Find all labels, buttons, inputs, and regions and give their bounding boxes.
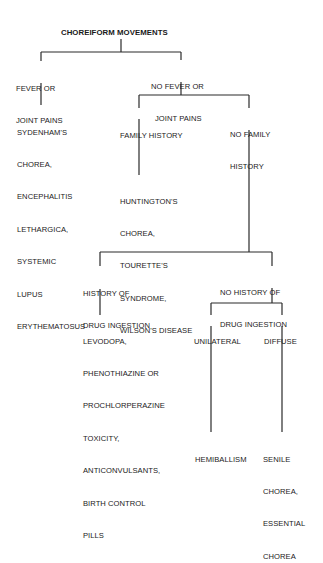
node-text: LEVODOPA, bbox=[83, 337, 165, 348]
node-text: ENCEPHALITIS bbox=[17, 192, 85, 203]
node-text: ERYTHEMATOSUS bbox=[17, 322, 85, 333]
node-text: PROCHLORPERAZINE bbox=[83, 401, 165, 412]
node-text: CHOREA, bbox=[120, 229, 192, 240]
node-text: UNILATERAL bbox=[194, 337, 241, 348]
node-text: NO FAMILY bbox=[230, 130, 270, 141]
node-text: HISTORY OF bbox=[83, 289, 150, 300]
node-unilateral: UNILATERAL bbox=[194, 315, 241, 369]
node-text: CHOREA bbox=[263, 552, 305, 563]
diagram-title: CHOREIFORM MOVEMENTS bbox=[61, 28, 168, 39]
node-diffuse: DIFFUSE bbox=[264, 315, 297, 369]
node-text: NO HISTORY OF bbox=[220, 288, 287, 299]
node-text: NO FEVER OR bbox=[151, 82, 204, 93]
node-text: TOXICITY, bbox=[83, 434, 165, 445]
node-text: BIRTH CONTROL bbox=[83, 499, 165, 510]
node-drug-outcome: LEVODOPA, PHENOTHIAZINE OR PROCHLORPERAZ… bbox=[83, 315, 165, 563]
node-text: PILLS bbox=[83, 531, 165, 542]
node-unilateral-outcome: HEMIBALLISM bbox=[195, 433, 247, 487]
node-text: LUPUS bbox=[17, 290, 85, 301]
node-text: CHOREA, bbox=[263, 487, 305, 498]
node-diffuse-outcome: SENILE CHOREA, ESSENTIAL CHOREA bbox=[263, 433, 305, 563]
node-text: HISTORY bbox=[230, 162, 270, 173]
node-text: SENILE bbox=[263, 455, 305, 466]
node-text: FAMILY HISTORY bbox=[120, 131, 183, 142]
node-text: ESSENTIAL bbox=[263, 519, 305, 530]
node-text: FEVER OR bbox=[16, 84, 63, 95]
node-family-history: FAMILY HISTORY bbox=[120, 109, 183, 163]
node-text: DIFFUSE bbox=[264, 337, 297, 348]
node-text: SYDENHAM'S bbox=[17, 128, 85, 139]
node-text: LETHARGICA, bbox=[17, 225, 85, 236]
node-fever-outcome: SYDENHAM'S CHOREA, ENCEPHALITIS LETHARGI… bbox=[17, 106, 85, 354]
node-text: SYSTEMIC bbox=[17, 257, 85, 268]
node-no-family-history: NO FAMILY HISTORY bbox=[230, 108, 270, 194]
node-text: ANTICONVULSANTS, bbox=[83, 466, 165, 477]
node-text: CHOREA, bbox=[17, 160, 85, 171]
node-text: HUNTINGTON'S bbox=[120, 197, 192, 208]
node-text: HEMIBALLISM bbox=[195, 455, 247, 466]
node-text: PHENOTHIAZINE OR bbox=[83, 369, 165, 380]
